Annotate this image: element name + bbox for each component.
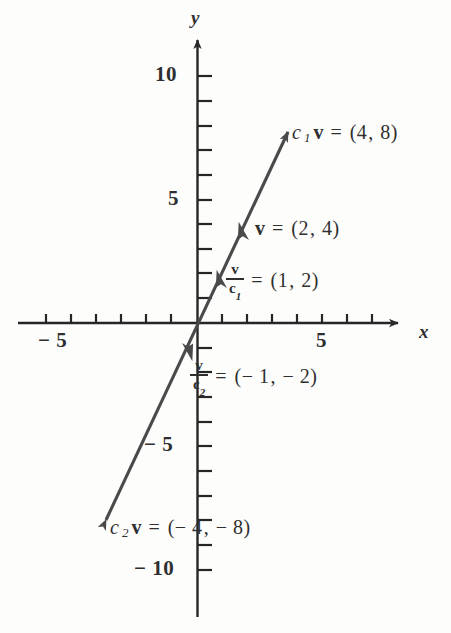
annotation-v-comma: , — [310, 217, 316, 239]
x-axis-label: x — [419, 322, 429, 341]
annotation-v-over-c1-den-subscript: 1 — [236, 290, 242, 302]
y-axis-label: y — [191, 8, 199, 27]
annotation-c2v-y: − 8 — [216, 516, 244, 538]
annotation-c1v-y: 8 — [380, 121, 391, 143]
y-axis-ticks-positive — [198, 76, 213, 298]
annotation-v-close: ) — [332, 217, 339, 239]
annotation-c1v-x: 4 — [357, 121, 368, 143]
annotation-v-over-c1-denominator: c1 — [226, 280, 244, 299]
annotation-c1v-comma: , — [368, 121, 374, 143]
y-tick-label-10: 10 — [155, 64, 177, 85]
annotation-v-over-c1-y: 2 — [301, 269, 312, 291]
annotation-v-over-c1-open: ( — [270, 269, 277, 291]
annotation-c2v-close: ) — [243, 516, 250, 538]
annotation-v-coords: (2, 4) — [291, 218, 339, 238]
x-tick-label-neg5: − 5 — [38, 330, 67, 351]
annotation-c2v-open: ( — [168, 516, 175, 538]
annotation-v-over-c2-den-subscript: 2 — [200, 386, 206, 398]
annotation-c1v-coords: (4, 8) — [350, 122, 398, 142]
annotation-v-over-c2: v c2 = (− 1, − 2) — [190, 358, 317, 395]
annotation-v-over-c1-x: 1 — [278, 269, 289, 291]
annotation-c2v-vector: v — [131, 517, 141, 537]
annotation-v-equals: = — [272, 218, 283, 238]
annotation-v-over-c2-coords: (− 1, − 2) — [234, 366, 317, 386]
annotation-v-over-c2-y: − 2 — [282, 365, 310, 387]
vector-diagram-figure: x y − 5 5 10 5 − 5 − 10 c1 v = (4, 8) v … — [0, 0, 451, 633]
annotation-v-over-c2-equals: = — [215, 366, 226, 386]
annotation-v-over-c1: v c1 = (1, 2) — [226, 262, 319, 299]
y-tick-label-neg10: − 10 — [134, 558, 174, 579]
annotation-c2v: c2 v = (− 4, − 8) — [110, 517, 251, 537]
annotation-c2v-comma: , — [204, 516, 210, 538]
annotation-v-over-c2-open: ( — [234, 365, 241, 387]
annotation-v-y: 4 — [322, 217, 333, 239]
annotation-v-over-c2-close: ) — [310, 365, 317, 387]
annotation-v-over-c2-den-base: c — [193, 376, 200, 392]
annotation-c1v: c1 v = (4, 8) — [292, 122, 398, 142]
annotation-c1v-open: ( — [350, 121, 357, 143]
annotation-v-x: 2 — [298, 217, 309, 239]
annotation-v-over-c1-comma: , — [289, 269, 295, 291]
annotation-v-over-c1-numerator: v — [228, 262, 242, 278]
annotation-v-over-c1-coords: (1, 2) — [270, 270, 318, 290]
annotation-v-over-c2-comma: , — [270, 365, 276, 387]
annotation-c2v-coords: (− 4, − 8) — [168, 517, 251, 537]
annotation-c2v-scalar: c — [110, 517, 119, 537]
annotation-v-over-c2-x: − 1 — [242, 365, 270, 387]
annotation-v-over-c1-den-base: c — [229, 280, 236, 296]
x-tick-label-5: 5 — [316, 330, 327, 351]
x-axis-ticks — [46, 314, 372, 323]
annotation-v-over-c1-equals: = — [251, 270, 262, 290]
annotation-c2v-scalar-subscript: 2 — [122, 526, 129, 539]
annotation-v-over-c1-close: ) — [312, 269, 319, 291]
annotation-v-over-c2-fraction: v c2 — [190, 358, 208, 395]
annotation-c2v-x: − 4 — [175, 516, 203, 538]
annotation-c1v-close: ) — [391, 121, 398, 143]
annotation-v-over-c1-fraction: v c1 — [226, 262, 244, 299]
y-tick-label-neg5: − 5 — [144, 434, 173, 455]
annotation-c1v-vector: v — [313, 122, 323, 142]
annotation-c1v-scalar: c — [292, 122, 301, 142]
annotation-v-over-c2-denominator: c2 — [190, 376, 208, 395]
y-tick-label-5: 5 — [168, 188, 179, 209]
annotation-v-over-c2-numerator: v — [192, 358, 206, 374]
annotation-v-vector: v — [255, 218, 265, 238]
annotation-v: v = (2, 4) — [255, 218, 340, 238]
annotation-c2v-equals: = — [148, 517, 159, 537]
annotation-c1v-equals: = — [330, 122, 341, 142]
plot-canvas — [0, 0, 451, 633]
annotation-c1v-scalar-subscript: 1 — [304, 131, 311, 144]
